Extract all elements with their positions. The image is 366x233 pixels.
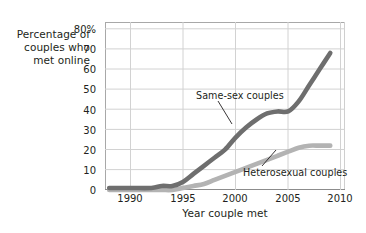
chart-figure: Percentage of couples who met online 80%…	[0, 0, 366, 233]
annotation-leader-same-sex	[218, 101, 232, 124]
annotation-label-heterosexual-couples: Heterosexual couples	[243, 167, 347, 178]
x-axis-label: Year couple met	[105, 207, 345, 219]
vertical-gridlines	[131, 22, 341, 190]
plot-area	[0, 0, 366, 233]
annotation-label-same-sex-couples: Same-sex couples	[196, 90, 284, 101]
